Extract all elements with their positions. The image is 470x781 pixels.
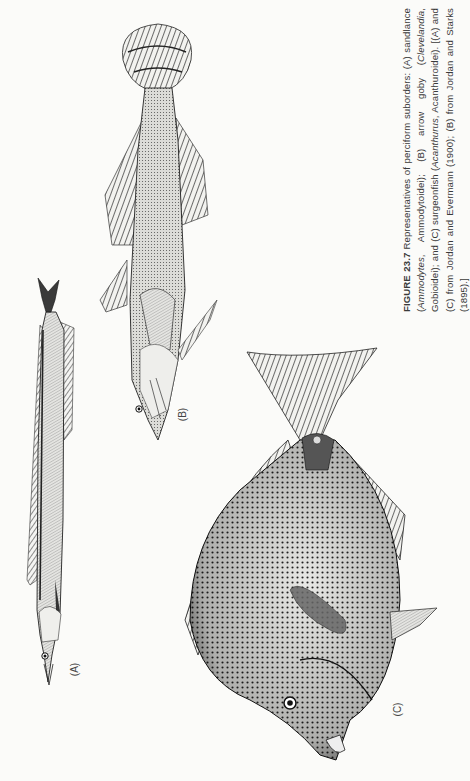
genus-acanthurus: Acanthurus [429, 118, 440, 168]
surgeonfish-illustration [185, 348, 437, 760]
genus-ammodytes: Ammodytes [415, 257, 426, 309]
panel-label-a: (A) [69, 663, 80, 676]
panel-label-b: (B) [177, 408, 188, 421]
figure-number: FIGURE 23.7 [401, 253, 412, 312]
sandlance-illustration [27, 278, 74, 685]
figure-caption: FIGURE 23.7Representatives of perciform … [400, 8, 470, 312]
caption-segment: , Ammodytoidei); (B) arrow goby ( [415, 62, 426, 257]
panel-label-c: (C) [392, 703, 403, 717]
genus-clevelandia: Clevelandia [415, 11, 426, 62]
figure-page: FIGURE 23.7Representatives of perciform … [0, 0, 470, 781]
arrow-goby-illustration [100, 24, 217, 440]
caption-text: FIGURE 23.7Representatives of perciform … [400, 8, 470, 312]
